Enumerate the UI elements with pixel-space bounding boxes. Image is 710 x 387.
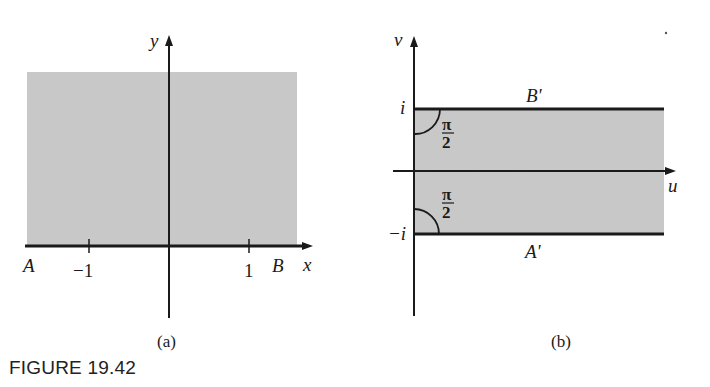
point-label-B: B xyxy=(272,255,284,276)
figure-caption: FIGURE 19.42 xyxy=(9,357,136,379)
panel-a: y x A B −1 1 (a) xyxy=(21,30,313,351)
point-label-A: A xyxy=(21,255,35,276)
boundary-label-B-prime: B' xyxy=(526,85,543,106)
v-axis-arrow-icon xyxy=(410,36,418,47)
x-axis-label: x xyxy=(302,254,312,275)
tick-label-i: i xyxy=(400,97,405,118)
panel-b-label: (b) xyxy=(551,332,571,351)
tick-label-1: 1 xyxy=(244,260,254,281)
figure-canvas: y x A B −1 1 (a) π 2 π 2 v xyxy=(0,0,710,387)
y-axis-arrow-icon xyxy=(165,35,173,46)
panel-b: π 2 π 2 v u i −i B' A' (b) xyxy=(388,29,678,351)
tick-label-neg-i: −i xyxy=(388,223,406,244)
denominator-2: 2 xyxy=(442,203,451,222)
v-axis-label: v xyxy=(394,29,403,50)
speck-mark xyxy=(665,32,667,34)
y-axis-label: y xyxy=(148,30,159,51)
denominator-2: 2 xyxy=(442,133,451,152)
pi-symbol: π xyxy=(442,115,452,134)
x-axis-arrow-icon xyxy=(302,242,313,250)
pi-symbol: π xyxy=(442,185,452,204)
upper-half-plane-region xyxy=(27,72,297,246)
u-axis-arrow-icon xyxy=(665,167,676,175)
panel-a-label: (a) xyxy=(157,332,176,351)
boundary-label-A-prime: A' xyxy=(523,241,542,262)
tick-label-neg1: −1 xyxy=(73,260,93,281)
u-axis-label: u xyxy=(668,175,678,196)
